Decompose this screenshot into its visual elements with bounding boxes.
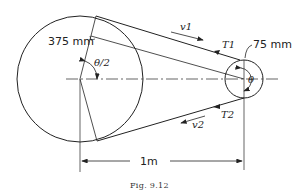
small-radius-leader — [245, 45, 252, 58]
belt-drive-diagram: θ/2 θ 375 mm 75 mm v1 T1 T2 v2 1m Fig. 9… — [0, 0, 298, 192]
velocity-arrow-v1 — [171, 32, 203, 40]
tension-label-t1: T1 — [222, 39, 235, 50]
figure-caption: Fig. 9.12 — [130, 181, 169, 190]
large-radius-label: 375 mm — [48, 35, 94, 48]
tension-label-t2: T2 — [221, 109, 234, 120]
small-radius-label: 75 mm — [253, 38, 292, 51]
angle-label: θ — [248, 74, 254, 85]
large-radius-bottom — [80, 79, 97, 141]
velocity-label-v1: v1 — [180, 21, 192, 32]
half-angle-label: θ/2 — [94, 57, 110, 68]
center-distance-label: 1m — [140, 155, 158, 168]
velocity-label-v2: v2 — [192, 119, 204, 130]
